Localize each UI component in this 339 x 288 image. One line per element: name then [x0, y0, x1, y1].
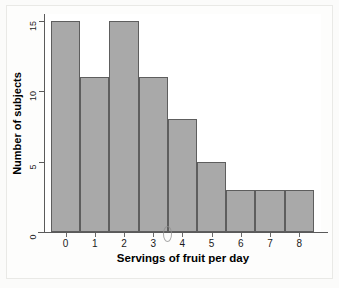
x-tick-mark — [66, 233, 67, 237]
x-tick-mark — [212, 233, 213, 237]
x-tick-label: 4 — [172, 238, 192, 249]
x-tick-label: 1 — [85, 238, 105, 249]
y-tick-mark — [39, 232, 45, 233]
histogram-bar — [139, 77, 168, 232]
x-tick-mark — [182, 233, 183, 237]
y-axis-line — [44, 14, 45, 233]
histogram-bar — [197, 162, 226, 232]
x-tick-mark — [299, 233, 300, 237]
histogram-bar — [51, 21, 80, 232]
x-tick-mark — [153, 233, 154, 237]
x-tick-label: 5 — [202, 238, 222, 249]
y-tick-label: 10 — [28, 91, 38, 101]
y-axis-title: Number of subjects — [10, 14, 24, 233]
stray-pencil-mark — [163, 226, 172, 242]
histogram-bar — [226, 190, 255, 232]
x-tick-label: 7 — [260, 238, 280, 249]
x-tick-mark — [95, 233, 96, 237]
histogram-bar — [255, 190, 284, 232]
x-tick-label: 6 — [231, 238, 251, 249]
y-tick-label: 5 — [28, 164, 38, 169]
histogram-figure: 051015 012345678 Number of subjects Serv… — [0, 0, 339, 288]
histogram-bar — [285, 190, 314, 232]
x-tick-mark — [124, 233, 125, 237]
y-tick-label: 0 — [28, 234, 38, 239]
x-tick-label: 3 — [143, 238, 163, 249]
x-tick-label: 0 — [56, 238, 76, 249]
histogram-bar — [80, 77, 109, 232]
histogram-bar — [168, 119, 197, 232]
histogram-bar — [109, 21, 138, 232]
y-tick-mark — [39, 91, 45, 92]
y-tick-label: 15 — [28, 21, 38, 31]
x-axis-title: Servings of fruit per day — [38, 252, 328, 264]
x-tick-label: 2 — [114, 238, 134, 249]
x-tick-mark — [270, 233, 271, 237]
x-tick-label: 8 — [289, 238, 309, 249]
y-tick-mark — [39, 21, 45, 22]
y-tick-mark — [39, 162, 45, 163]
x-tick-mark — [241, 233, 242, 237]
